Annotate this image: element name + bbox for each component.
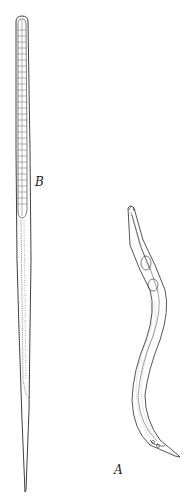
nematode-illustrations xyxy=(0,0,196,500)
specimen-b-label: B xyxy=(35,176,44,188)
specimen-a-drawing xyxy=(128,206,180,457)
specimen-b-drawing xyxy=(16,16,31,492)
figure-canvas: B A xyxy=(0,0,196,500)
specimen-a-label: A xyxy=(114,464,123,476)
